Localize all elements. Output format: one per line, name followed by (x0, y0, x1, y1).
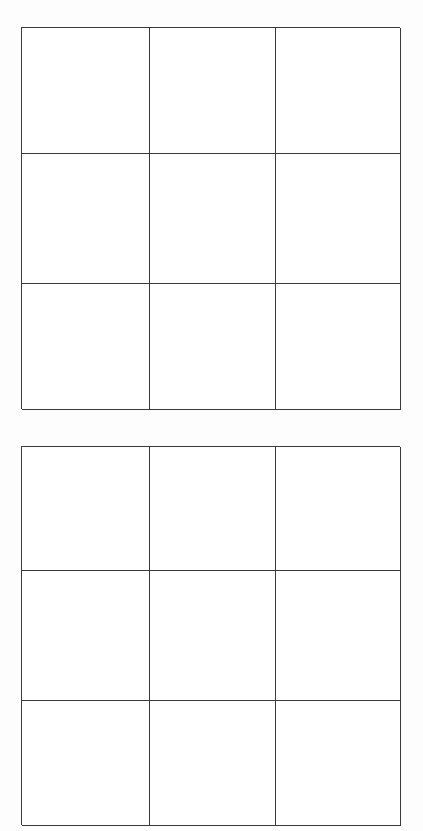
grid-cell[interactable] (150, 701, 276, 826)
grid-cell[interactable] (150, 284, 276, 410)
grid-cell[interactable] (22, 28, 150, 154)
lower-grid (21, 446, 400, 825)
grid-cell[interactable] (276, 284, 401, 410)
grid-cell[interactable] (276, 28, 401, 154)
grid-cell[interactable] (22, 154, 150, 284)
document-page (0, 0, 423, 831)
grid-cell[interactable] (276, 571, 401, 701)
grid-cell[interactable] (276, 154, 401, 284)
grid-cell[interactable] (22, 701, 150, 826)
grid-cell[interactable] (22, 284, 150, 410)
grid-cell[interactable] (22, 571, 150, 701)
grid-cell[interactable] (150, 447, 276, 571)
grid-cell[interactable] (276, 701, 401, 826)
upper-grid (21, 27, 400, 409)
grid-cell[interactable] (22, 447, 150, 571)
grid-cell[interactable] (276, 447, 401, 571)
grid-cell[interactable] (150, 154, 276, 284)
grid-cell[interactable] (150, 28, 276, 154)
grid-cell[interactable] (150, 571, 276, 701)
